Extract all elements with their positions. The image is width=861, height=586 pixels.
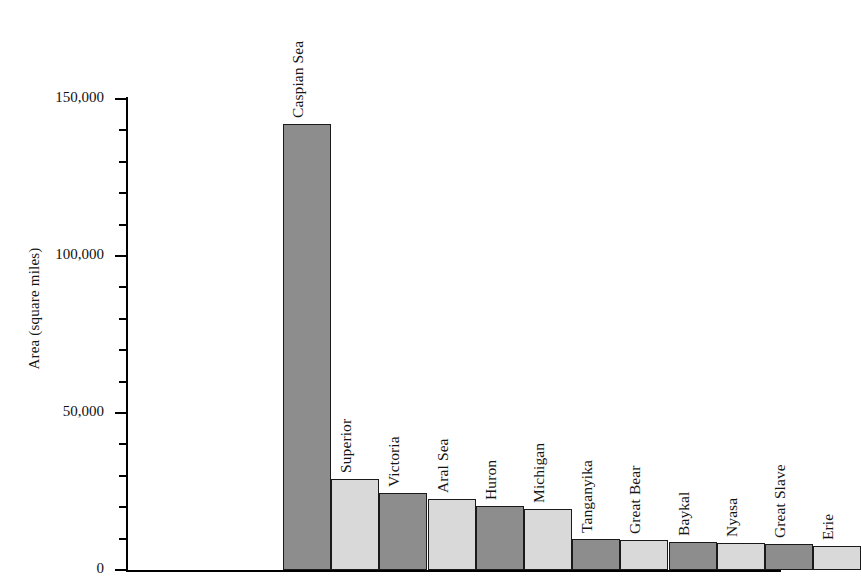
y-tick-label-text: 150,000 (55, 89, 104, 106)
y-tick-label-text: 0 (97, 560, 105, 577)
bar-category-label-text: Michigan (530, 443, 548, 503)
bar (620, 540, 668, 570)
bar-category-label-text: Great Slave (771, 464, 789, 538)
bar-slot: Aral Sea (428, 99, 476, 570)
bar (379, 493, 427, 570)
bar-slot: Baykal (669, 99, 717, 570)
bar-series: Caspian SeaSuperiorVictoriaAral SeaHuron… (283, 99, 861, 570)
bar-slot: Great Bear (620, 99, 668, 570)
bar-category-label-text: Aral Sea (434, 439, 452, 494)
bar (813, 546, 861, 570)
y-tick-label-text: 100,000 (55, 246, 104, 263)
x-axis-baseline (126, 570, 781, 572)
bar-category-label-text: Erie (819, 513, 837, 539)
bar (524, 509, 572, 570)
bar (765, 544, 813, 570)
bar-slot: Nyasa (717, 99, 765, 570)
bar-slot: Great Slave (765, 99, 813, 570)
bar-slot: Tanganyika (572, 99, 620, 570)
bar (476, 506, 524, 570)
bar-slot: Erie (813, 99, 861, 570)
bar (717, 543, 765, 570)
bar-slot: Huron (476, 99, 524, 570)
y-tick-label-text: 50,000 (63, 403, 104, 420)
bar-slot: Superior (331, 99, 379, 570)
bar (283, 124, 331, 570)
bar (572, 539, 620, 570)
bar (428, 499, 476, 570)
bar-category-label-text: Superior (337, 419, 355, 473)
bar (331, 479, 379, 570)
bar-category-label-text: Baykal (675, 491, 693, 536)
plot-area: Caspian SeaSuperiorVictoriaAral SeaHuron… (126, 99, 771, 570)
bar-category-label-text: Nyasa (723, 497, 741, 536)
bar (669, 542, 717, 570)
bar-slot: Caspian Sea (283, 99, 331, 570)
bar-category-label-text: Huron (482, 460, 500, 500)
bar-category-label-text: Victoria (385, 436, 403, 487)
bar-slot: Michigan (524, 99, 572, 570)
y-axis-title: Area (square miles) (26, 199, 43, 419)
bar-slot: Victoria (379, 99, 427, 570)
bar-category-label-text: Tanganyika (578, 460, 596, 533)
bar-category-label-text: Great Bear (626, 465, 644, 534)
bar-category-label-text: Caspian Sea (289, 41, 307, 118)
